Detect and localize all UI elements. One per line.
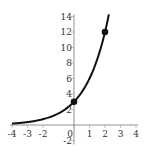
y-tick-label: 8 [66,58,72,68]
y-tick-label: 4 [66,89,72,99]
y-tick-label: 6 [66,74,72,84]
x-tick-label: 2 [102,129,108,139]
data-point [71,98,78,105]
y-tick-label: -2 [63,136,72,146]
x-tick-label: -4 [8,129,17,139]
x-tick-label: -3 [23,129,32,139]
exponential-chart: -4-3-201234-22468101214 [0,0,149,155]
x-tick-label: -2 [39,129,48,139]
x-tick-label: 1 [87,129,93,139]
data-point [102,29,109,36]
y-tick-label: 12 [61,27,72,37]
x-tick-label: 4 [133,129,139,139]
x-tick-label: 3 [118,129,124,139]
y-tick-label: 10 [61,43,73,53]
y-tick-label: 14 [61,12,73,22]
